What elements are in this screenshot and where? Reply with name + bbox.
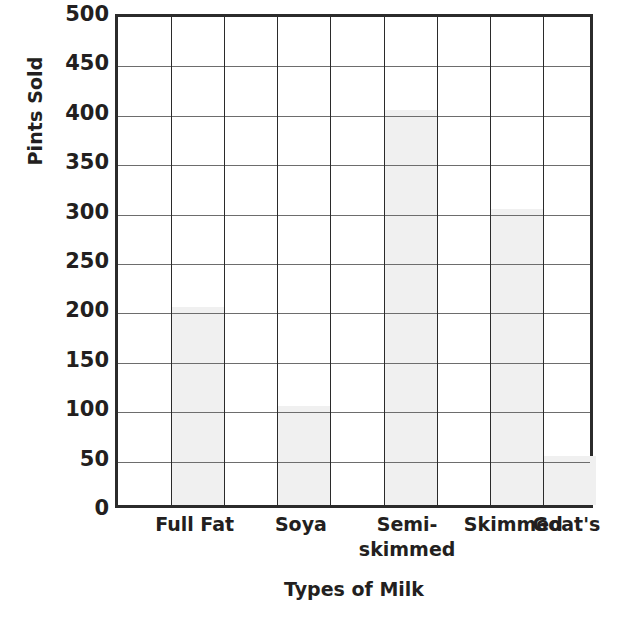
y-axis-tick-label: 500 (45, 4, 109, 25)
vertical-gridline (490, 17, 491, 505)
y-axis-tick-label: 400 (45, 102, 109, 123)
y-axis-tick-label: 50 (45, 448, 109, 469)
y-axis-tick-label: 100 (45, 399, 109, 420)
horizontal-gridline (118, 462, 590, 463)
y-axis-tick-labels: 500450400350300250200150100500 (45, 0, 109, 620)
x-axis-tick-label: Goat's (501, 512, 631, 537)
horizontal-gridline (118, 215, 590, 216)
y-axis-tick-label: 0 (45, 498, 109, 519)
plot-grid-and-bars (118, 17, 590, 505)
horizontal-gridline (118, 363, 590, 364)
bar-chart: Pints Sold 50045040035030025020015010050… (0, 0, 633, 620)
horizontal-gridline (118, 412, 590, 413)
plot-area (115, 14, 593, 508)
bar (171, 307, 224, 505)
vertical-gridline (384, 17, 385, 505)
y-axis-tick-label: 250 (45, 251, 109, 272)
y-axis-tick-label: 350 (45, 152, 109, 173)
x-axis-title: Types of Milk (115, 577, 593, 601)
vertical-gridline (330, 17, 331, 505)
y-axis-tick-label: 200 (45, 300, 109, 321)
horizontal-gridline (118, 165, 590, 166)
bar (543, 456, 596, 505)
horizontal-gridline (118, 116, 590, 117)
vertical-gridline (437, 17, 438, 505)
bar (277, 406, 330, 505)
vertical-gridline (171, 17, 172, 505)
y-axis-tick-label: 150 (45, 349, 109, 370)
bar (384, 110, 437, 505)
bar (490, 209, 543, 505)
vertical-gridline (277, 17, 278, 505)
y-axis-tick-label: 450 (45, 53, 109, 74)
horizontal-gridline (118, 264, 590, 265)
vertical-gridline (224, 17, 225, 505)
horizontal-gridline (118, 66, 590, 67)
y-axis-tick-label: 300 (45, 201, 109, 222)
horizontal-gridline (118, 313, 590, 314)
x-axis-tick-labels: Full FatSoyaSemi- skimmedSkimmedGoat's (115, 512, 593, 572)
vertical-gridline (543, 17, 544, 505)
